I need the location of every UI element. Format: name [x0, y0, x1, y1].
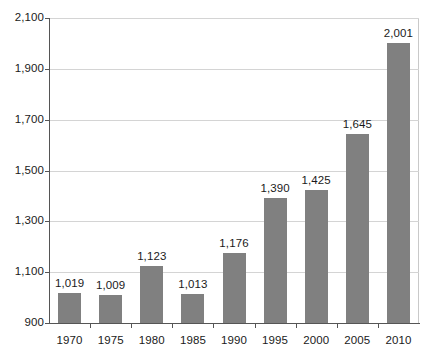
x-axis-label: 2010 [378, 334, 419, 347]
y-axis-label: 1,100 [0, 266, 44, 278]
bar-value-label: 1,009 [90, 279, 131, 292]
bar [99, 295, 122, 323]
y-axis-tick [45, 18, 50, 19]
x-axis-label: 1990 [213, 334, 254, 347]
y-axis-tick [45, 272, 50, 273]
bar [387, 43, 410, 323]
x-axis-tick [131, 323, 132, 328]
bar [264, 198, 287, 323]
bar [346, 134, 369, 323]
x-axis-label: 1995 [255, 334, 296, 347]
y-axis-tick [45, 171, 50, 172]
bar-value-label: 1,645 [337, 118, 378, 131]
x-axis-label: 1975 [90, 334, 131, 347]
x-axis-tick [255, 323, 256, 328]
bar-value-label: 1,390 [255, 182, 296, 195]
y-axis-tick [45, 323, 50, 324]
y-axis-label: 1,300 [0, 215, 44, 227]
bar-value-label: 1,019 [49, 277, 90, 290]
x-axis-line [49, 323, 420, 324]
y-axis-label: 2,100 [0, 12, 44, 24]
x-axis-tick [90, 323, 91, 328]
bar [140, 266, 163, 323]
bar [305, 190, 328, 323]
x-axis-label: 2005 [337, 334, 378, 347]
bar [181, 294, 204, 323]
bar [58, 293, 81, 323]
bar [223, 253, 246, 323]
y-axis-tick [45, 221, 50, 222]
gridline [50, 69, 419, 70]
x-axis-label: 1970 [49, 334, 90, 347]
y-axis-label: 1,900 [0, 63, 44, 75]
x-axis-tick [213, 323, 214, 328]
x-axis-label: 1980 [131, 334, 172, 347]
bar-chart: 9001,1001,3001,5001,7001,9002,100 197019… [0, 0, 441, 356]
x-axis-label: 1985 [172, 334, 213, 347]
y-axis-tick [45, 69, 50, 70]
y-axis-label: 1,700 [0, 114, 44, 126]
gridline [50, 18, 419, 19]
x-axis-tick [337, 323, 338, 328]
bar-value-label: 1,123 [131, 250, 172, 263]
y-axis-label: 1,500 [0, 165, 44, 177]
bar-value-label: 1,013 [172, 278, 213, 291]
x-axis-tick [378, 323, 379, 328]
y-axis-label: 900 [0, 317, 44, 329]
x-axis-tick [172, 323, 173, 328]
x-axis-label: 2000 [296, 334, 337, 347]
bar-value-label: 1,425 [296, 174, 337, 187]
y-axis-tick [45, 120, 50, 121]
bar-value-label: 2,001 [378, 27, 419, 40]
bar-value-label: 1,176 [213, 237, 254, 250]
x-axis-tick [296, 323, 297, 328]
